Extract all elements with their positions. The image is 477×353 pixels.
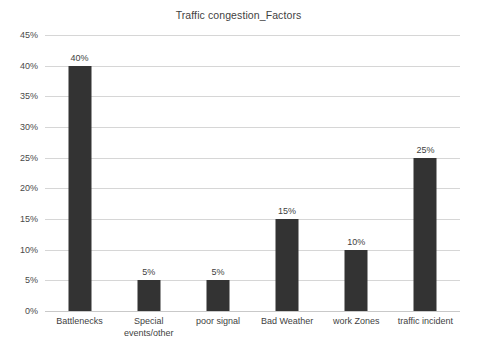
gridline	[45, 311, 460, 312]
y-axis-tick-label: 30%	[0, 122, 38, 132]
y-axis-tick-label: 5%	[0, 275, 38, 285]
bar[interactable]	[68, 66, 91, 311]
bar-value-label: 5%	[142, 267, 155, 277]
bar-value-label: 5%	[211, 267, 224, 277]
bar-value-label: 10%	[347, 237, 365, 247]
y-axis-tick-label: 40%	[0, 61, 38, 71]
chart-title: Traffic congestion_Factors	[0, 9, 477, 21]
x-axis-category-label: poor signal	[183, 316, 252, 328]
x-axis-category-label: work Zones	[322, 316, 391, 328]
bar-value-label: 15%	[278, 206, 296, 216]
bar[interactable]	[206, 280, 229, 311]
x-axis-labels: BattlenecksSpecialevents/otherpoor signa…	[45, 316, 460, 352]
bar-slot: 5%	[114, 35, 183, 311]
bar[interactable]	[414, 158, 437, 311]
x-axis-category-label: Battlenecks	[45, 316, 114, 328]
y-axis-tick-label: 45%	[0, 30, 38, 40]
bar-slot: 15%	[253, 35, 322, 311]
y-axis-tick-label: 0%	[0, 306, 38, 316]
bar-slot: 25%	[391, 35, 460, 311]
y-axis-tick-label: 10%	[0, 245, 38, 255]
y-axis-tick-label: 35%	[0, 91, 38, 101]
bar-slot: 40%	[45, 35, 114, 311]
y-axis-tick-label: 20%	[0, 183, 38, 193]
bar[interactable]	[345, 250, 368, 311]
x-axis-category-label: traffic incident	[391, 316, 460, 328]
bar-slot: 5%	[183, 35, 252, 311]
bar-slot: 10%	[322, 35, 391, 311]
plot-area: 40%5%5%15%10%25%	[45, 35, 460, 311]
bar-value-label: 25%	[416, 145, 434, 155]
y-axis-tick-label: 15%	[0, 214, 38, 224]
x-axis-category-label: Specialevents/other	[114, 316, 183, 339]
bar-chart: Traffic congestion_Factors 40%5%5%15%10%…	[0, 0, 477, 353]
bar-value-label: 40%	[71, 53, 89, 63]
bar[interactable]	[137, 280, 160, 311]
x-axis-category-label: Bad Weather	[253, 316, 322, 328]
y-axis-tick-label: 25%	[0, 153, 38, 163]
bars-group: 40%5%5%15%10%25%	[45, 35, 460, 311]
bar[interactable]	[276, 219, 299, 311]
